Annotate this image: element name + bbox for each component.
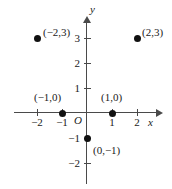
y-axis-label: y [90,4,95,15]
data-point-label: (0,−1) [93,145,120,156]
data-point [59,110,66,117]
x-tick-label: 1 [100,117,124,128]
x-tick-label: −2 [25,117,49,128]
x-tick-mark [137,109,138,116]
coordinate-plane-figure: x y O −2 −1 1 2 3 2 1 −1 −2 (−2,3) (2,3)… [0,0,172,189]
y-tick-mark [84,63,91,64]
data-point-label: (1,0) [101,92,122,103]
x-tick-label: −1 [50,117,74,128]
y-tick-mark [84,38,91,39]
data-point [34,35,41,42]
x-axis-arrow-icon [156,109,163,117]
y-tick-mark [84,88,91,89]
data-point [109,110,116,117]
origin-label: O [74,115,82,126]
data-point-label: (−2,3) [43,27,70,38]
data-point [134,35,141,42]
y-tick-label: −1 [56,133,80,144]
y-axis-line [86,22,87,184]
data-point-label: (2,3) [142,27,163,38]
data-point-label: (−1,0) [34,92,61,103]
x-tick-mark [37,109,38,116]
x-tick-label: 2 [125,117,149,128]
data-point [84,135,91,142]
y-tick-label: −2 [56,158,80,169]
y-tick-label: 2 [56,58,80,69]
y-axis-arrow-icon [83,16,91,23]
y-tick-mark [84,163,91,164]
